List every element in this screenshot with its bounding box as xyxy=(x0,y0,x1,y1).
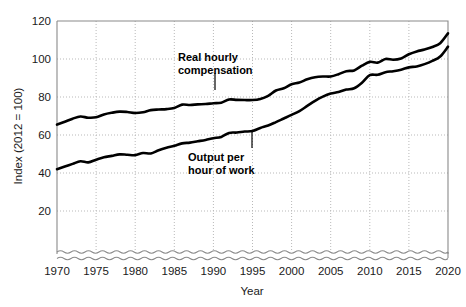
annotation-real-hourly-compensation: Real hourly compensation xyxy=(178,51,253,76)
axis-break-wave-top xyxy=(57,251,448,253)
x-tick-2005: 2005 xyxy=(318,265,344,277)
axis-break-wave-bottom xyxy=(57,257,448,259)
x-axis-title: Year xyxy=(240,285,263,297)
x-tick-2015: 2015 xyxy=(396,265,422,277)
y-axis-tick-labels: 120 100 80 60 40 20 xyxy=(32,15,51,217)
x-tick-2020: 2020 xyxy=(435,265,461,277)
annotation-output-line1: Output per xyxy=(188,151,245,163)
y-tick-60: 60 xyxy=(38,129,51,141)
annotation-compensation-line2: compensation xyxy=(178,64,253,76)
x-tick-2000: 2000 xyxy=(279,265,305,277)
y-tick-40: 40 xyxy=(38,167,51,179)
x-tick-1990: 1990 xyxy=(201,265,227,277)
x-tick-1995: 1995 xyxy=(240,265,266,277)
annotation-output-per-hour: Output per hour of work xyxy=(188,151,255,176)
x-tick-1985: 1985 xyxy=(162,265,188,277)
y-tick-120: 120 xyxy=(32,15,51,27)
x-axis-tick-labels: 1970 1975 1980 1985 1990 1995 2000 2005 … xyxy=(44,265,461,277)
x-tick-1975: 1975 xyxy=(83,265,109,277)
y-tick-80: 80 xyxy=(38,91,51,103)
line-chart: Real hourly compensation Output per hour… xyxy=(0,0,466,307)
chart-container: Real hourly compensation Output per hour… xyxy=(0,0,466,307)
x-tick-1980: 1980 xyxy=(122,265,148,277)
data-series-group xyxy=(57,33,448,169)
y-tick-20: 20 xyxy=(38,205,51,217)
annotation-compensation-line1: Real hourly xyxy=(178,51,239,63)
y-tick-100: 100 xyxy=(32,53,51,65)
x-tick-1970: 1970 xyxy=(44,265,70,277)
axis-break-wave xyxy=(57,251,448,260)
x-tick-2010: 2010 xyxy=(357,265,383,277)
annotation-output-line2: hour of work xyxy=(188,164,255,176)
y-axis-title: Index (2012 = 100) xyxy=(12,87,24,184)
